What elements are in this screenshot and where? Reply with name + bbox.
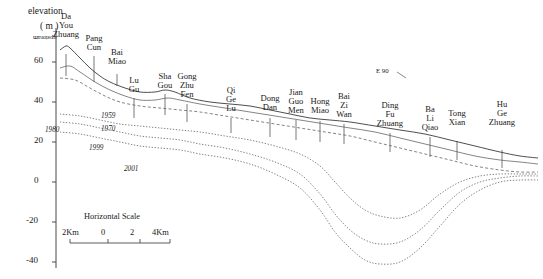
e90-leader-line <box>397 72 406 78</box>
curve-label-1980: 1980 <box>45 127 59 134</box>
series-2001 <box>60 132 538 264</box>
curve-label-2001: 2001 <box>124 166 138 173</box>
site-label-13: TongXian <box>435 109 479 127</box>
curve-label-1999: 1999 <box>89 145 103 152</box>
curve-label-1970: 1970 <box>101 126 115 133</box>
site-label-14: HuGeZhuang <box>480 100 524 127</box>
site-label-2: BaiMiao <box>95 48 139 66</box>
site-label-6: QiGeLu <box>209 86 253 113</box>
y-tick-label--20: -20 <box>26 216 38 225</box>
site-label-10: BaiZiWan <box>322 92 366 119</box>
y-tick-label-20: 20 <box>34 136 43 145</box>
curve-label-1959: 1959 <box>101 113 115 120</box>
series-1999 <box>60 122 538 244</box>
y-tick-label-60: 60 <box>34 56 43 65</box>
y-tick-label-40: 40 <box>34 96 43 105</box>
site-label-5: GongZhuFen <box>165 72 209 99</box>
y-tick-label-0: 0 <box>34 176 39 185</box>
y-tick-label--40: -40 <box>26 256 38 265</box>
site-label-11: DingFuZhuang <box>368 101 412 128</box>
cross-section-figure: elevation ( m ) upstream E 90 Horizontal… <box>0 0 543 279</box>
